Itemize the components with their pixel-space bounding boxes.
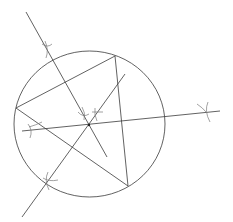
arc-mark [42, 44, 52, 46]
construction-diagram [0, 0, 233, 222]
arc-mark [45, 41, 47, 58]
arc-mark [43, 178, 58, 181]
perpendicular-bisector-1 [26, 12, 107, 157]
arc-mark [197, 104, 206, 112]
arc-mark [28, 124, 31, 138]
circumcenter [88, 124, 90, 126]
compass-arcs [28, 41, 210, 190]
